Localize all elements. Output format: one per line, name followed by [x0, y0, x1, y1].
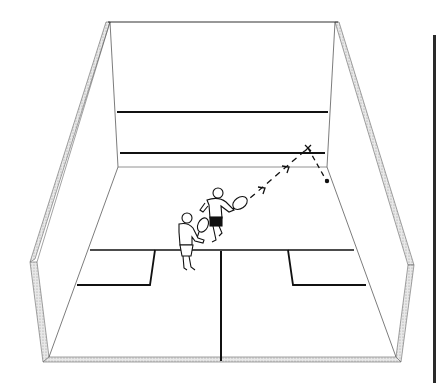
waiting-player: [179, 213, 211, 270]
shot-path: [242, 148, 326, 205]
impact-x-icon: [305, 145, 311, 151]
page-edge-border: [433, 35, 436, 383]
right-side-wall: [327, 22, 414, 362]
hitting-player: [200, 188, 250, 242]
left-side-wall: [30, 22, 118, 362]
ball-icon: [325, 179, 329, 183]
front-wall: [108, 22, 338, 167]
floor-markings: [77, 250, 366, 361]
court-drawing: [0, 0, 437, 388]
right-service-box: [288, 250, 366, 285]
left-service-box: [77, 250, 155, 285]
